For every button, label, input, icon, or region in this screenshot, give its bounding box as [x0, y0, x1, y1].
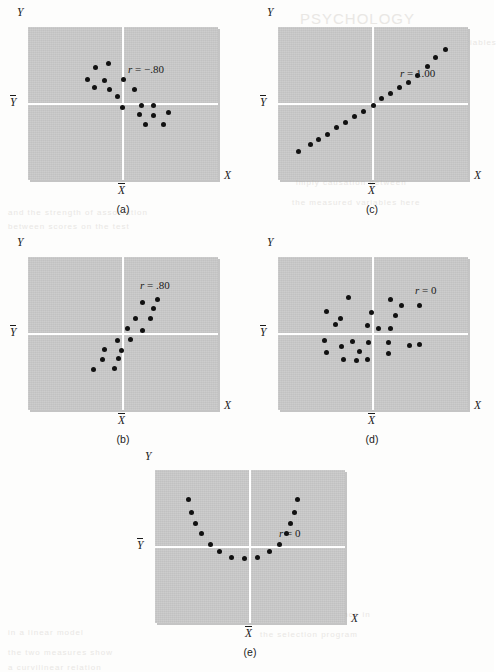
- panel-d-x-axis-label: X: [474, 399, 481, 411]
- data-point: [91, 367, 96, 372]
- data-point: [399, 303, 404, 308]
- panel-e: r = 0: [155, 470, 345, 623]
- data-point: [357, 349, 362, 354]
- data-point: [346, 295, 351, 300]
- data-point: [308, 142, 313, 147]
- panel-b-y-axis-label: Y: [17, 236, 23, 248]
- data-point: [267, 549, 272, 554]
- data-point: [343, 120, 348, 125]
- data-point: [406, 80, 411, 85]
- panel-b-plot-area: [28, 257, 218, 410]
- panel-a-y-mean-label: Y: [10, 95, 16, 108]
- data-point: [133, 316, 138, 321]
- data-point: [140, 328, 145, 333]
- data-point: [186, 497, 191, 502]
- data-point: [341, 357, 346, 362]
- panel-d-r-label: r = 0: [415, 284, 437, 296]
- data-point: [139, 103, 144, 108]
- data-point: [128, 337, 133, 342]
- panel-e-x-axis-label: X: [351, 612, 358, 624]
- data-point: [100, 357, 105, 362]
- data-point: [121, 77, 126, 82]
- panel-d-plot-area: [278, 257, 468, 410]
- data-point: [166, 110, 171, 115]
- data-point: [365, 357, 370, 362]
- data-point: [151, 113, 156, 118]
- data-point: [242, 556, 247, 561]
- data-point: [397, 85, 402, 90]
- data-point: [189, 510, 194, 515]
- data-point: [92, 85, 97, 90]
- data-point: [296, 149, 301, 154]
- panel-d-horizontal-mean-line: [278, 333, 468, 335]
- panel-a-x-axis-label: X: [224, 169, 231, 181]
- bleed-text: in a linear model: [8, 628, 84, 637]
- panel-c: r = 1.00: [278, 27, 468, 180]
- data-point: [151, 306, 156, 311]
- panel-c-x-mean-label: X: [368, 183, 375, 196]
- data-point: [386, 340, 391, 345]
- panel-b-x-axis-label: X: [224, 399, 231, 411]
- data-point: [115, 338, 120, 343]
- data-point: [379, 96, 384, 101]
- data-point: [217, 549, 222, 554]
- data-point: [85, 77, 90, 82]
- panel-b-y-mean-label: Y: [10, 325, 16, 338]
- data-point: [316, 137, 321, 142]
- panel-e-x-mean-label: X: [245, 626, 252, 639]
- data-point: [229, 555, 234, 560]
- panel-b-r-label: r = .80: [140, 279, 170, 291]
- panel-b-horizontal-mean-line: [28, 333, 218, 335]
- data-point: [338, 316, 343, 321]
- data-point: [386, 351, 391, 356]
- data-point: [433, 55, 438, 60]
- data-point: [292, 510, 297, 515]
- panel-a: r = −.80: [28, 27, 218, 180]
- data-point: [324, 350, 329, 355]
- panel-d: r = 0: [278, 257, 468, 410]
- data-point: [334, 125, 339, 130]
- data-point: [93, 65, 98, 70]
- data-point: [361, 109, 366, 114]
- data-point: [255, 555, 260, 560]
- panel-d-y-axis-label: Y: [267, 236, 273, 248]
- bleed-text: PSYCHOLOGY: [300, 10, 415, 27]
- data-point: [288, 521, 293, 526]
- bleed-text: the two measures show: [8, 648, 113, 657]
- panel-e-y-axis-label: Y: [145, 450, 151, 462]
- data-point: [140, 300, 145, 305]
- panel-c-y-axis-label: Y: [267, 6, 273, 18]
- data-point: [115, 94, 120, 99]
- panel-a-x-mean-label: X: [118, 183, 125, 196]
- data-point: [393, 313, 398, 318]
- panel-c-caption: (c): [250, 203, 494, 215]
- bleed-text: a curvilinear relation: [8, 663, 102, 672]
- panel-a-y-axis-label: Y: [17, 6, 23, 18]
- panel-d-caption: (d): [250, 433, 494, 445]
- panel-a-plot-area: [28, 27, 218, 180]
- data-point: [106, 61, 111, 66]
- data-point: [155, 297, 160, 302]
- data-point: [137, 112, 142, 117]
- data-point: [388, 91, 393, 96]
- data-point: [333, 322, 338, 327]
- panel-e-horizontal-mean-line: [155, 546, 345, 548]
- panel-d-x-mean-label: X: [368, 413, 375, 426]
- panel-b-caption: (b): [0, 433, 246, 445]
- data-point: [339, 344, 344, 349]
- panel-a-r-label: r = −.80: [128, 63, 164, 75]
- data-point: [161, 122, 166, 127]
- data-point: [369, 310, 374, 315]
- panel-b: r = .80: [28, 257, 218, 410]
- data-point: [407, 343, 412, 348]
- data-point: [350, 339, 355, 344]
- data-point: [376, 326, 381, 331]
- data-point: [352, 114, 357, 119]
- data-point: [125, 326, 130, 331]
- data-point: [366, 340, 371, 345]
- panel-e-r-label: r = 0: [279, 527, 301, 539]
- data-point: [322, 338, 327, 343]
- data-point: [120, 105, 125, 110]
- panel-c-x-axis-label: X: [474, 169, 481, 181]
- data-point: [417, 303, 422, 308]
